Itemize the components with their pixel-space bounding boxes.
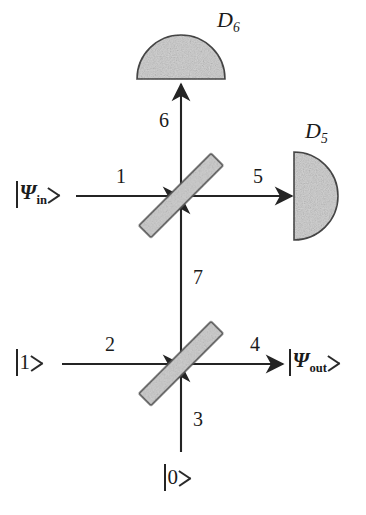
port-label-4: 4 (250, 334, 260, 354)
state-psi-in-symbol: Ψ (20, 180, 37, 204)
detector-d5-letter: D (305, 118, 321, 143)
ket-bar (289, 349, 291, 376)
detector-d5-label: D5 (305, 120, 328, 146)
state-psi-out-subscript: out (309, 361, 327, 375)
state-psi-in: Ψin (16, 181, 61, 208)
port-label-6: 6 (159, 110, 169, 130)
ket-angle-bracket-icon (328, 349, 341, 376)
state-zero: 0 (164, 464, 192, 491)
port-label-7: 7 (193, 267, 203, 287)
state-one: 1 (16, 349, 44, 376)
detector-d6-shape (137, 35, 225, 79)
ket-bar (164, 464, 166, 491)
ket-bar (16, 349, 18, 376)
port-label-2: 2 (105, 334, 115, 354)
detector-d6-subscript: 6 (233, 20, 240, 35)
optical-diagram (0, 0, 366, 515)
detector-d5-subscript: 5 (321, 131, 328, 146)
detector-d6-letter: D (217, 7, 233, 32)
state-psi-in-subscript: in (36, 193, 47, 207)
ket-angle-bracket-icon (179, 464, 192, 491)
port-label-1: 1 (116, 166, 126, 186)
state-zero-body: 0 (168, 467, 179, 488)
state-one-body: 1 (20, 352, 31, 373)
ket-angle-bracket-icon (31, 349, 44, 376)
state-psi-in-body: Ψin (20, 182, 47, 207)
detector-d5-shape (294, 152, 338, 240)
figure-canvas: D6 D5 6 1 5 7 2 4 3 Ψin 1 0 Ψout (0, 0, 366, 515)
port-label-5: 5 (253, 166, 263, 186)
state-psi-out: Ψout (289, 349, 341, 376)
state-psi-out-body: Ψout (293, 350, 327, 375)
ket-angle-bracket-icon (48, 181, 61, 208)
state-psi-out-symbol: Ψ (293, 348, 310, 372)
ket-bar (16, 181, 18, 208)
port-label-3: 3 (193, 409, 203, 429)
detector-d6-label: D6 (217, 9, 240, 35)
